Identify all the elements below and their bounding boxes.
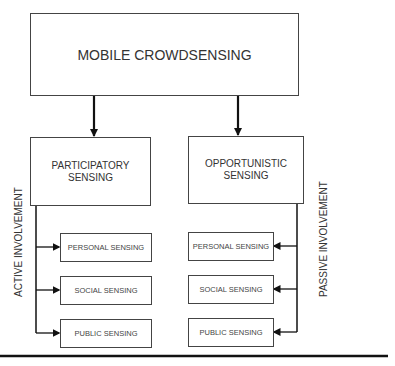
node-label: PERSONAL SENSING [193, 242, 269, 251]
node-label: PERSONAL SENSING [68, 243, 144, 252]
participatory-label-1: PARTICIPATORY [52, 160, 130, 172]
participatory-public-sensing-node: PUBLIC SENSING [60, 319, 152, 348]
opportunistic-personal-sensing-node: PERSONAL SENSING [188, 232, 274, 261]
opportunistic-label-2: SENSING [205, 170, 287, 182]
active-involvement-label: ACTIVE INVOLVEMENT [13, 187, 24, 297]
participatory-social-sensing-node: SOCIAL SENSING [60, 276, 152, 305]
opportunistic-sensing-node: OPPORTUNISTIC SENSING [188, 136, 304, 204]
opportunistic-social-sensing-node: SOCIAL SENSING [188, 275, 274, 304]
node-label: PUBLIC SENSING [200, 328, 263, 337]
passive-involvement-label: PASSIVE INVOLVEMENT [318, 181, 329, 297]
opportunistic-label-1: OPPORTUNISTIC [205, 158, 287, 170]
root-node: MOBILE CROWDSENSING [30, 13, 299, 96]
participatory-label-2: SENSING [52, 172, 130, 184]
root-label: MOBILE CROWDSENSING [77, 47, 251, 63]
node-label: SOCIAL SENSING [74, 286, 137, 295]
node-label: SOCIAL SENSING [199, 285, 262, 294]
participatory-personal-sensing-node: PERSONAL SENSING [60, 233, 152, 262]
participatory-sensing-node: PARTICIPATORY SENSING [30, 137, 151, 206]
node-label: PUBLIC SENSING [75, 329, 138, 338]
opportunistic-public-sensing-node: PUBLIC SENSING [188, 318, 274, 347]
